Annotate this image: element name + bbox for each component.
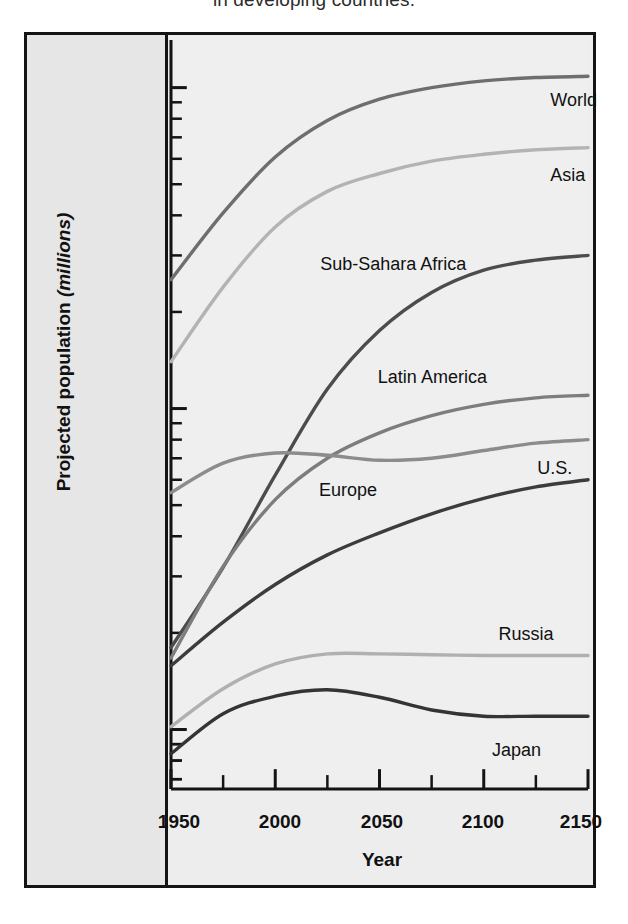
x-axis-title: Year [171, 849, 593, 871]
y-axis-label-band: Projected population (millions) [27, 35, 168, 885]
series-label-japan: Japan [492, 740, 541, 761]
chart-svg [171, 40, 588, 789]
series-line-latin-america [171, 395, 588, 658]
series-label-latin-america: Latin America [378, 367, 487, 388]
x-tick-label-1950: 1950 [158, 811, 200, 833]
series-label-russia: Russia [499, 624, 554, 645]
series-label-europe: Europe [319, 480, 377, 501]
series-label-asia: Asia [550, 165, 585, 186]
x-tick-label-2050: 2050 [361, 811, 403, 833]
figure-caption: in developing countries. [0, 0, 628, 11]
y-axis-ticks [171, 88, 187, 780]
x-tick-label-2000: 2000 [259, 811, 301, 833]
y-axis-title-units: (millions) [53, 213, 74, 297]
chart-frame: Projected population (millions) 10,000 1… [24, 32, 596, 888]
x-tick-label-2150: 2150 [560, 811, 602, 833]
plot-area [171, 40, 588, 789]
series-label-world: World [550, 90, 597, 111]
data-curves [171, 76, 588, 754]
series-label-sub-sahara-africa: Sub-Sahara Africa [320, 254, 466, 275]
series-line-sub-sahara-africa [171, 255, 588, 647]
series-line-world [171, 76, 588, 279]
x-axis-ticks [171, 769, 588, 789]
series-label-u-s: U.S. [537, 458, 572, 479]
x-tick-label-2100: 2100 [462, 811, 504, 833]
y-axis-title: Projected population (millions) [53, 72, 75, 632]
series-line-europe [171, 440, 588, 493]
y-axis-title-main: Projected population [53, 302, 74, 491]
